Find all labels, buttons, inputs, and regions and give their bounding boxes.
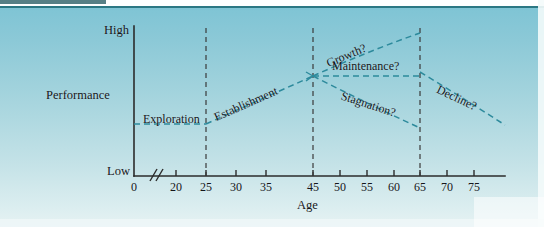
x-tick-label-45: 45	[307, 180, 319, 195]
x-tick-label-35: 35	[260, 180, 272, 195]
axis-break-mark-2	[156, 169, 163, 181]
x-tick-label-0: 0	[131, 180, 137, 195]
career-stage-figure: High Low Performance 0 20 25 30 35 45 50…	[0, 0, 544, 227]
x-tick-label-25: 25	[200, 180, 212, 195]
branch-arrowhead	[306, 72, 313, 81]
x-axis-title: Age	[297, 198, 318, 213]
x-tick-label-65: 65	[414, 180, 426, 195]
x-tick-label-55: 55	[361, 180, 373, 195]
x-tick-label-30: 30	[230, 180, 242, 195]
x-tick-label-70: 70	[441, 180, 453, 195]
y-axis-high-label: High	[104, 23, 129, 38]
axis-break-mark-1	[150, 169, 157, 181]
y-axis-title: Performance	[46, 88, 110, 103]
label-maintenance: Maintenance?	[332, 59, 399, 74]
plot-canvas	[0, 0, 544, 227]
x-tick-label-50: 50	[334, 180, 346, 195]
x-tick-label-75: 75	[468, 180, 480, 195]
x-tick-label-20: 20	[170, 180, 182, 195]
x-tick-label-60: 60	[388, 180, 400, 195]
label-exploration: Exploration	[143, 112, 200, 127]
y-axis-low-label: Low	[107, 164, 130, 179]
x-axis-ticks	[176, 170, 474, 176]
